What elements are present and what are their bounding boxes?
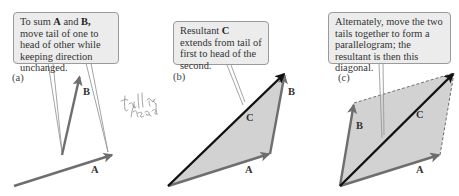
handwritten-annotation-strokes <box>121 93 157 117</box>
callout-pointer-a <box>48 63 108 152</box>
panel-label-b: (b) <box>173 71 185 82</box>
label-a-panel-c: A <box>416 164 424 175</box>
panel-b <box>168 65 285 186</box>
label-c-panel-c: C <box>416 109 424 120</box>
callout-a-vector-b: B, <box>81 16 91 27</box>
label-c-panel-b: C <box>246 112 254 123</box>
label-b-panel-a: B <box>83 86 90 97</box>
callout-a-text-mid: and <box>61 16 81 27</box>
callout-a-vector-a: A <box>53 16 61 27</box>
callout-a-text-pre: To sum <box>20 16 53 27</box>
callout-panel-c: Alternately, move the two tails together… <box>328 12 451 64</box>
panel-label-a: (a) <box>12 72 24 83</box>
callout-pointer-b <box>227 65 243 105</box>
panel-label-c: (c) <box>338 72 350 83</box>
callout-b-vector-c: C <box>222 25 230 36</box>
callout-b-text-pre: Resultant <box>180 25 222 36</box>
label-a-panel-b: A <box>245 164 253 175</box>
callout-panel-b: Resultant C extends from tail of first t… <box>173 21 269 65</box>
vector-b-in-panel-a <box>62 77 80 155</box>
label-a-panel-a: A <box>91 164 99 175</box>
callout-panel-a: To sum A and B, move tail of one to head… <box>13 12 119 64</box>
label-b-panel-c: B <box>356 120 363 131</box>
label-b-panel-b: B <box>288 86 295 97</box>
callout-pointer-b-edge <box>231 65 245 102</box>
